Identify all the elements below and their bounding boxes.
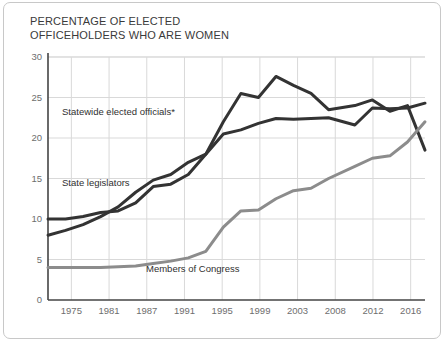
x-tick-label: 1999 bbox=[249, 305, 270, 316]
y-tick-label: 10 bbox=[31, 213, 42, 224]
y-tick-label: 15 bbox=[31, 173, 42, 184]
y-tick-label: 5 bbox=[37, 254, 42, 265]
y-tick-label: 20 bbox=[31, 132, 42, 143]
x-tick-label: 1987 bbox=[136, 305, 157, 316]
series-line bbox=[48, 122, 425, 268]
y-tick-label: 0 bbox=[37, 294, 42, 305]
x-tick-label: 1975 bbox=[61, 305, 82, 316]
x-tick-label: 2003 bbox=[287, 305, 308, 316]
x-tick-label: 1995 bbox=[212, 305, 233, 316]
x-tick-label: 1981 bbox=[99, 305, 120, 316]
x-tick-label: 1991 bbox=[174, 305, 195, 316]
series-annotation-legislators: State legislators bbox=[62, 177, 130, 188]
x-tick-label: 2016 bbox=[400, 305, 421, 316]
y-tick-label: 25 bbox=[31, 92, 42, 103]
series-annotation-congress: Members of Congress bbox=[146, 263, 240, 274]
line-chart-svg: 0510152025301975198119871991199519992003… bbox=[0, 0, 446, 345]
chart-plot-area: 0510152025301975198119871991199519992003… bbox=[0, 0, 446, 345]
x-tick-label: 2012 bbox=[362, 305, 383, 316]
y-tick-label: 30 bbox=[31, 51, 42, 62]
x-tick-label: 2008 bbox=[325, 305, 346, 316]
series-annotation-statewide: Statewide elected officials* bbox=[62, 106, 175, 117]
